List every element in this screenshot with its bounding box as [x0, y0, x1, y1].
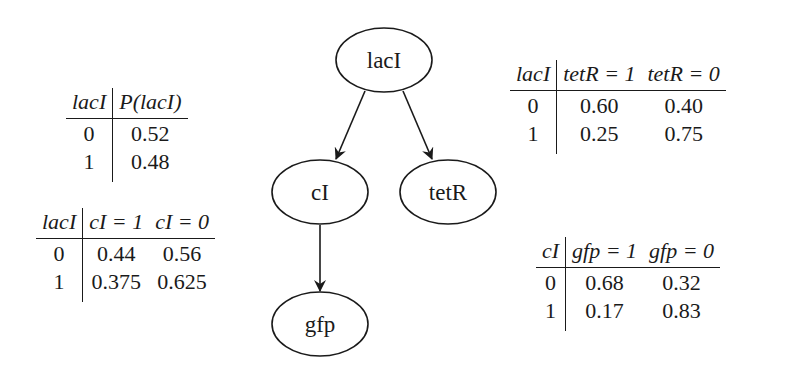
table-cell: 1	[510, 120, 557, 154]
table-row: 0 0.60 0.40	[510, 91, 726, 121]
node-label-tetR: tetR	[429, 180, 468, 205]
table-row: 0 0.68 0.32	[536, 268, 720, 298]
table-cell: 0.32	[643, 268, 720, 298]
table-cell: 0	[536, 268, 566, 298]
table-row: 1 0.17 0.83	[536, 297, 720, 331]
table-cell: 0.44	[83, 239, 149, 269]
header-cell: cI = 0	[149, 208, 215, 239]
table-cell: 0.83	[643, 297, 720, 331]
table-cell: 0.625	[149, 268, 215, 302]
table-cell: 0.68	[566, 268, 643, 298]
table-cell: 0	[66, 119, 113, 149]
table-row: 1 0.48	[66, 148, 188, 182]
header-cell: cI = 1	[83, 208, 149, 239]
table-cell: 0.17	[566, 297, 643, 331]
node-tetR: tetR	[400, 160, 496, 224]
header-cell: gfp = 0	[643, 237, 720, 268]
table-cell: 1	[66, 148, 113, 182]
table-cell: 0.40	[641, 91, 725, 121]
node-lacI: lacI	[336, 28, 432, 92]
header-cell: cI	[536, 237, 566, 268]
table-row: 1 0.25 0.75	[510, 120, 726, 154]
table-cell: 0	[36, 239, 83, 269]
header-cell: lacI	[36, 208, 83, 239]
table-row: 0 0.44 0.56	[36, 239, 215, 269]
table-row: 1 0.375 0.625	[36, 268, 215, 302]
header-cell: tetR = 0	[641, 60, 725, 91]
table-cell: 0.48	[113, 148, 188, 182]
node-label-cI: cI	[311, 180, 329, 205]
table-cell: 0.375	[83, 268, 149, 302]
table-row: 0 0.52	[66, 119, 188, 149]
edge-lacI-to-tetR	[403, 91, 432, 159]
table-cell: 1	[536, 297, 566, 331]
node-cI: cI	[272, 160, 368, 224]
table-cell: 0	[510, 91, 557, 121]
header-cell: tetR = 1	[557, 60, 642, 91]
table-cell: 0.25	[557, 120, 642, 154]
node-label-lacI: lacI	[367, 48, 401, 73]
table-cell: 0.56	[149, 239, 215, 269]
cpt-gfp-given-cI: cI gfp = 1 gfp = 0 0 0.68 0.32 1 0.17 0.…	[536, 237, 720, 331]
cpt-lacI-prior: lacI P(lacI) 0 0.52 1 0.48	[66, 88, 188, 182]
edge-lacI-to-cI	[336, 91, 365, 159]
table-cell: 1	[36, 268, 83, 302]
cpt-tetR-given-lacI: lacI tetR = 1 tetR = 0 0 0.60 0.40 1 0.2…	[510, 60, 726, 154]
header-cell: gfp = 1	[566, 237, 643, 268]
node-label-gfp: gfp	[305, 312, 336, 337]
header-cell: lacI	[66, 88, 113, 119]
node-gfp: gfp	[272, 292, 368, 356]
header-cell: lacI	[510, 60, 557, 91]
table-cell: 0.52	[113, 119, 188, 149]
table-cell: 0.75	[641, 120, 725, 154]
cpt-cI-given-lacI: lacI cI = 1 cI = 0 0 0.44 0.56 1 0.375 0…	[36, 208, 215, 302]
table-cell: 0.60	[557, 91, 642, 121]
header-cell: P(lacI)	[113, 88, 188, 119]
